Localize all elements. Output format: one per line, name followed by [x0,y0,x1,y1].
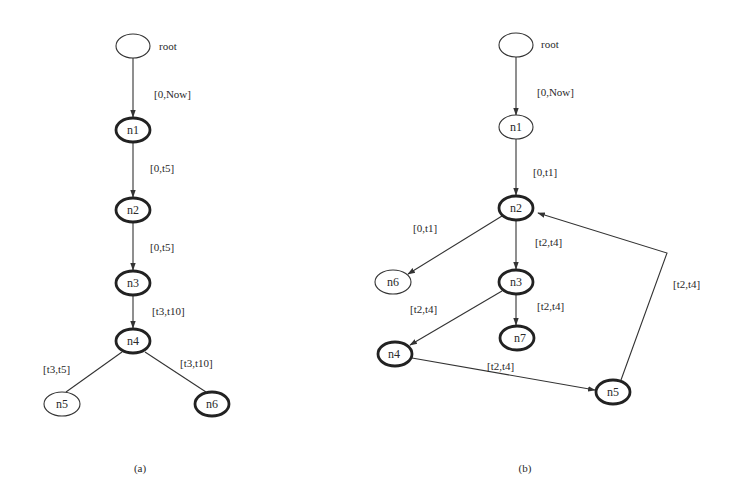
node-a-n5: n5 [44,392,80,416]
svg-text:n2: n2 [510,201,522,215]
panel-b: [0,Now] [0,t1] [0,t1] [t2,t4] [t2,t4] [t… [375,33,700,475]
svg-text:n6: n6 [206,397,218,411]
edge-label-b-n3-n4: [t2,t4] [410,303,437,315]
node-b-n5: n5 [596,380,630,404]
node-b-n1: n1 [499,115,533,139]
svg-text:n7: n7 [514,331,526,345]
node-a-n2: n2 [116,198,150,222]
node-a-n6: n6 [195,392,229,416]
node-a-root [116,34,150,58]
node-b-n3: n3 [499,270,533,294]
svg-text:n3: n3 [127,276,139,290]
caption-b: (b) [519,462,532,475]
node-b-root [499,33,533,57]
edge-label-b-n2-n3: [t2,t4] [535,236,562,248]
node-b-n4: n4 [378,342,412,366]
svg-text:n6: n6 [387,275,399,289]
edge-label-b-n4-n5: [t2,t4] [487,360,514,372]
figure-canvas: [0,Now] [0,t5] [0,t5] [t3,t10] [t3,t5] [… [0,0,745,500]
edge-b-n3-n4 [410,291,502,345]
svg-text:n5: n5 [56,397,68,411]
node-b-n6: n6 [375,270,411,294]
svg-text:n3: n3 [510,275,522,289]
edge-label-b-n5-n2: [t2,t4] [673,278,700,290]
svg-text:n1: n1 [127,123,139,137]
edge-label-a-n4-n6: [t3,t10] [180,357,213,369]
edge-label-b-root-n1: [0,Now] [537,86,574,98]
edge-a-n4-n5 [66,352,122,392]
svg-text:n5: n5 [607,385,619,399]
node-b-n7: n7 [500,326,534,350]
svg-text:n4: n4 [127,334,139,348]
edge-label-b-n2-n6: [0,t1] [413,222,437,234]
svg-text:n1: n1 [510,120,522,134]
edge-label-a-n4-n5: [t3,t5] [43,363,70,375]
node-a-n1: n1 [116,118,150,142]
panel-a: [0,Now] [0,t5] [0,t5] [t3,t10] [t3,t5] [… [43,34,229,475]
edge-label-a-n1-n2: [0,t5] [150,162,174,174]
node-a-n4: n4 [116,329,150,353]
svg-text:n2: n2 [127,203,139,217]
node-b-n2: n2 [499,196,533,220]
edge-label-b-n3-n7: [t2,t4] [537,300,564,312]
edge-label-b-n1-n2: [0,t1] [533,166,557,178]
root-label-b: root [541,38,559,50]
edge-label-a-root-n1: [0,Now] [154,88,191,100]
caption-a: (a) [134,462,147,475]
root-label-a: root [159,40,177,52]
svg-text:n4: n4 [388,347,400,361]
edge-label-a-n3-n4: [t3,t10] [152,305,185,317]
node-a-n3: n3 [116,271,150,295]
edge-label-a-n2-n3: [0,t5] [150,241,174,253]
